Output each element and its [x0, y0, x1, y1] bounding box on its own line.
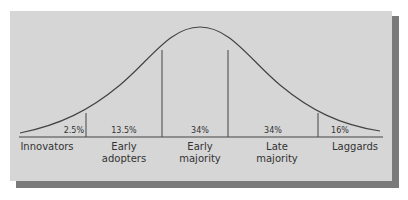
label-laggards: Laggards [320, 141, 390, 153]
label-line-2: adopters [89, 153, 159, 165]
label-late-majority: Late majority [242, 141, 312, 165]
bell-curve [20, 27, 380, 133]
label-line-1: Early [165, 141, 235, 153]
percent-early-majority: 34% [180, 126, 220, 135]
percent-early-adopters: 13.5% [104, 126, 144, 135]
label-line-1: Innovators [12, 141, 82, 153]
percent-innovators: 2.5% [60, 126, 84, 135]
label-line-1: Laggards [320, 141, 390, 153]
label-innovators: Innovators [12, 141, 82, 153]
label-line-2: majority [242, 153, 312, 165]
label-line-1: Late [242, 141, 312, 153]
bell-curve-diagram [0, 0, 408, 200]
percent-laggards: 16% [328, 126, 352, 135]
label-line-1: Early [89, 141, 159, 153]
label-line-2: majority [165, 153, 235, 165]
label-early-majority: Early majority [165, 141, 235, 165]
label-early-adopters: Early adopters [89, 141, 159, 165]
percent-late-majority: 34% [253, 126, 293, 135]
